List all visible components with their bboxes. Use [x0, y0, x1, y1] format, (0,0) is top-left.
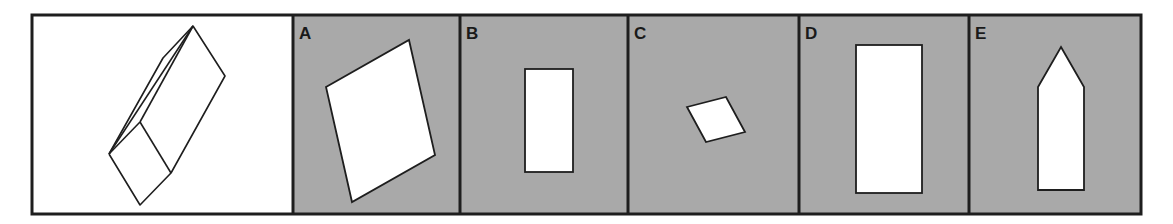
option-panel-a[interactable]: A: [293, 15, 460, 214]
option-panel-b[interactable]: B: [460, 15, 628, 214]
reference-panel: [32, 15, 293, 214]
option-panel-e[interactable]: E: [969, 15, 1141, 214]
rectangle-shape: [525, 69, 573, 172]
large-rectangle-shape: [856, 45, 922, 193]
option-label-a: A: [299, 24, 311, 43]
option-panel-c[interactable]: C: [628, 15, 799, 214]
option-label-b: B: [466, 24, 478, 43]
option-panel-d[interactable]: D: [799, 15, 969, 214]
option-label-e: E: [975, 24, 986, 43]
option-label-c: C: [634, 24, 646, 43]
option-label-d: D: [805, 24, 817, 43]
shape-puzzle: A B C D E: [0, 0, 1173, 224]
